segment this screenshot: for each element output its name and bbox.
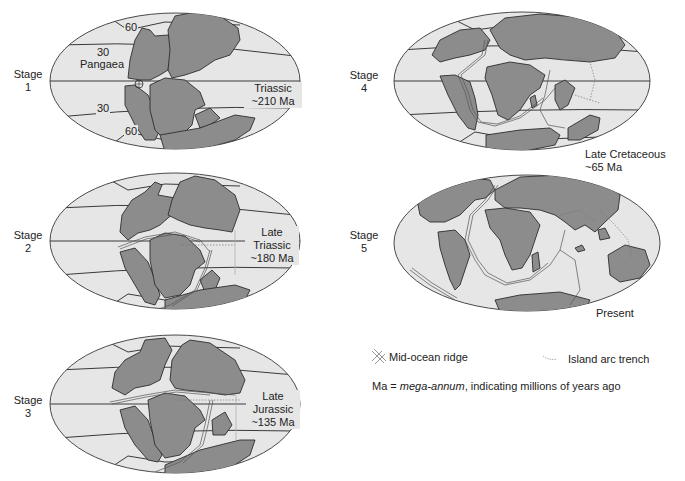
mid-ocean-ridge-icon: [372, 349, 386, 364]
stage-1-label: Stage 1: [10, 68, 46, 94]
period-age: ~65 Ma: [585, 161, 666, 174]
stage-word: Stage: [346, 229, 382, 242]
stage-3-period: Late Jurassic ~135 Ma: [246, 390, 300, 429]
stage-4-map: [385, 12, 660, 152]
period-qualifier: Late: [246, 390, 300, 403]
stage-5-map: [394, 175, 660, 315]
stage-4-period: Late Cretaceous ~65 Ma: [585, 148, 666, 174]
stage-5-period: Present: [596, 307, 634, 320]
continental-drift-diagram: [0, 0, 685, 481]
island-arc-trench-icon: [543, 356, 557, 360]
legend-island-arc-trench-label: Island arc trench: [568, 353, 649, 366]
stage-4-label: Stage 4: [346, 69, 382, 95]
stage-number: 5: [346, 242, 382, 255]
period-age: ~135 Ma: [246, 416, 300, 429]
period-name: Triassic: [245, 239, 299, 252]
stage-number: 3: [10, 407, 46, 420]
stage-word: Stage: [346, 69, 382, 82]
ma-term: mega-annum: [400, 380, 465, 392]
stage-2-period: Late Triassic ~180 Ma: [245, 226, 299, 265]
latitude-label-30s: 30: [96, 102, 110, 115]
period-name: Jurassic: [246, 403, 300, 416]
stage-5-label: Stage 5: [346, 229, 382, 255]
legend-ma-definition: Ma = mega-annum, indicating millions of …: [372, 380, 621, 393]
stage-1-period: Triassic ~210 Ma: [244, 82, 302, 108]
ma-prefix: Ma =: [372, 380, 400, 392]
stage-3-label: Stage 3: [10, 394, 46, 420]
latitude-label-60s: 60: [124, 125, 138, 138]
stage-number: 2: [10, 242, 46, 255]
period-age: ~180 Ma: [245, 252, 299, 265]
period-qualifier: Late: [245, 226, 299, 239]
stage-number: 1: [10, 81, 46, 94]
stage-2-label: Stage 2: [10, 229, 46, 255]
stage-word: Stage: [10, 229, 46, 242]
ma-suffix: , indicating millions of years ago: [465, 380, 621, 392]
period-name: Late Cretaceous: [585, 148, 666, 161]
stage-number: 4: [346, 82, 382, 95]
legend-mid-ocean-ridge-label: Mid-ocean ridge: [389, 351, 468, 364]
stage-word: Stage: [10, 394, 46, 407]
period-name: Triassic: [244, 82, 302, 95]
stage-word: Stage: [10, 68, 46, 81]
latitude-label-60n: 60: [124, 21, 138, 34]
supercontinent-label: Pangaea: [80, 58, 124, 71]
period-age: ~210 Ma: [244, 95, 302, 108]
